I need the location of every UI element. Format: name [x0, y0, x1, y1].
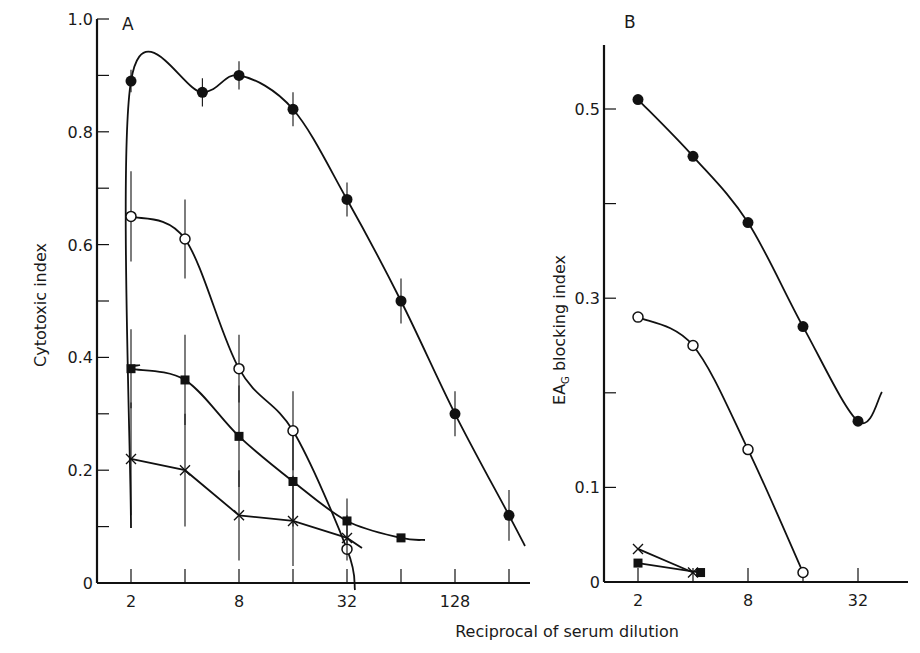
marker-filled-circle	[633, 94, 644, 105]
marker-open-circle	[234, 364, 244, 374]
marker-open-circle	[180, 234, 190, 244]
x-tick-label: 32	[337, 592, 357, 611]
fit-curve	[638, 317, 803, 572]
fit-curve	[638, 549, 693, 573]
y-tick-label: 0.3	[575, 289, 600, 308]
panel-b: 00.10.30.52832BEAG blocking index	[550, 12, 908, 610]
marker-filled-square	[181, 375, 190, 384]
marker-filled-circle	[197, 87, 208, 98]
y-tick-label: 1.0	[68, 10, 93, 29]
x-tick-label: 128	[440, 592, 471, 611]
panel-a: 00.20.40.60.81.02832128ACytotoxic index	[31, 10, 530, 611]
y-tick-label: 0	[83, 574, 93, 593]
marker-open-circle	[288, 426, 298, 436]
y-tick-label: 0.2	[68, 461, 93, 480]
marker-filled-square	[127, 364, 136, 373]
y-tick-label: 0.1	[575, 478, 600, 497]
fit-curve	[131, 216, 355, 590]
y-tick-label: 0.8	[68, 123, 93, 142]
marker-filled-circle	[743, 217, 754, 228]
marker-filled-circle	[288, 104, 299, 115]
series-filled-circle	[633, 94, 883, 427]
figure: 00.20.40.60.81.02832128ACytotoxic index …	[0, 0, 920, 653]
fit-curve	[129, 365, 425, 540]
marker-open-circle	[743, 445, 753, 455]
marker-filled-circle	[798, 321, 809, 332]
fit-curve	[638, 100, 882, 424]
marker-filled-square	[235, 432, 244, 441]
marker-open-circle	[633, 312, 643, 322]
marker-filled-circle	[126, 76, 137, 87]
marker-open-circle	[798, 568, 808, 578]
x-tick-label: 32	[848, 591, 868, 610]
x-tick-label: 8	[743, 591, 753, 610]
marker-cross	[633, 544, 643, 554]
marker-filled-square	[634, 559, 643, 568]
x-axis-title: Reciprocal of serum dilution	[455, 622, 679, 641]
y-axis-title: EAG blocking index	[550, 255, 571, 405]
marker-filled-circle	[396, 296, 407, 307]
marker-filled-square	[696, 568, 705, 577]
y-tick-label: 0.5	[575, 100, 600, 119]
x-tick-label: 2	[126, 592, 136, 611]
y-tick-label: 0.6	[68, 236, 93, 255]
marker-filled-circle	[504, 510, 515, 521]
x-tick-label: 8	[234, 592, 244, 611]
y-tick-label: 0	[590, 573, 600, 592]
series-cross	[633, 544, 698, 578]
y-axis-title: Cytotoxic index	[31, 243, 50, 367]
marker-open-circle	[126, 211, 136, 221]
marker-filled-circle	[853, 416, 864, 427]
panel-label: A	[122, 14, 134, 34]
series-filled-square	[127, 329, 426, 543]
series-open-circle	[633, 312, 808, 577]
marker-filled-circle	[688, 151, 699, 162]
marker-filled-circle	[342, 194, 353, 205]
marker-filled-square	[397, 533, 406, 542]
y-tick-label: 0.4	[68, 348, 93, 367]
series-cross	[126, 403, 362, 567]
series-open-circle	[126, 171, 355, 590]
x-tick-label: 2	[633, 591, 643, 610]
marker-filled-circle	[450, 408, 461, 419]
panel-label: B	[624, 12, 636, 32]
marker-open-circle	[688, 341, 698, 351]
marker-filled-circle	[234, 70, 245, 81]
